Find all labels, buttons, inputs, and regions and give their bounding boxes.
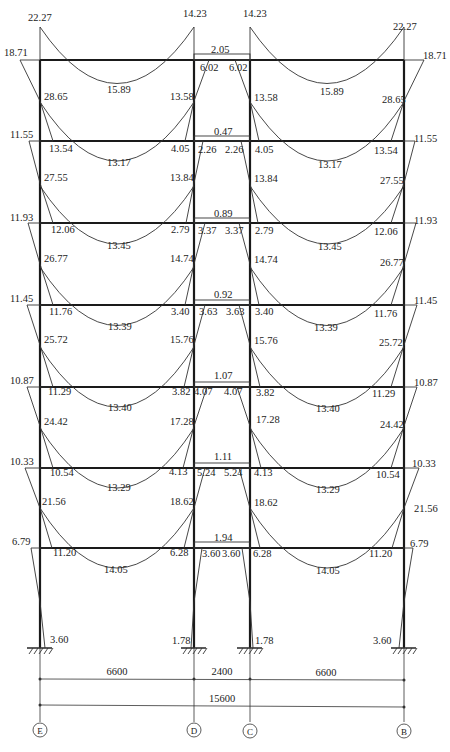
roof-right-curve [250,27,404,84]
value-label: 26.77 [380,257,404,268]
value-label: 25.72 [44,334,68,345]
value-label: 11.29 [48,386,71,397]
value-label: 14.74 [170,253,194,264]
value-label: 28.65 [44,91,68,102]
value-label: 22.27 [393,21,417,32]
value-label: 0.89 [214,208,232,219]
value-label: 6.02 [200,62,218,73]
value-label: 13.39 [314,322,338,333]
value-label: 21.56 [42,496,66,507]
value-label: 13.17 [318,159,342,170]
value-label: 10.54 [376,469,400,480]
value-label: 6.79 [410,538,428,549]
moment-values: 22.27 14.23 14.23 22.27 18.71 18.71 2.05… [4,8,447,646]
value-label: 13.84 [254,173,278,184]
axis-label-C: C [247,727,253,737]
value-label: 27.55 [44,172,68,183]
axis-label-E: E [37,726,43,736]
value-label: 13.58 [170,91,194,102]
value-label: 13.17 [107,157,131,168]
value-label: 12.06 [374,226,398,237]
value-label: 13.40 [316,403,340,414]
value-label: 12.06 [51,224,75,235]
value-label: 25.72 [379,337,403,348]
value-label: 3.60 [373,635,391,646]
dimension-lines [39,648,406,722]
value-label: 11.76 [49,306,72,317]
value-label: 15.76 [254,335,278,346]
value-label: 11.20 [369,548,392,559]
axis-label-D: D [191,726,198,736]
value-label: 1.07 [214,370,232,381]
value-label: 4.07 [224,386,242,397]
value-label: 13.40 [108,402,132,413]
value-label: 4.07 [194,386,212,397]
value-label: 6.28 [253,548,271,559]
value-label: 11.93 [414,215,437,226]
value-label: 4.13 [254,467,272,478]
value-label: 5.24 [224,467,243,478]
axis-markers: E D C B [33,723,411,738]
value-label: 24.42 [44,416,68,427]
frame-structure [40,60,404,648]
value-label: 11.93 [10,212,33,223]
value-label: 18.71 [423,50,447,61]
value-label: 3.63 [199,306,217,317]
value-label: 2.79 [255,225,273,236]
value-label: 4.05 [255,144,273,155]
value-label: 3.82 [172,386,190,397]
value-label: 6.02 [229,62,247,73]
value-label: 15.76 [170,334,194,345]
value-label: 15.89 [320,86,344,97]
value-label: 13.54 [49,143,73,154]
value-label: 14.05 [104,564,128,575]
value-label: 1.11 [214,451,232,462]
value-label: 13.58 [254,92,278,103]
value-label: 15.89 [107,84,131,95]
value-label: 13.54 [374,145,398,156]
value-label: 2.26 [225,144,243,155]
value-label: 10.33 [412,458,436,469]
value-label: 6.28 [170,547,188,558]
dim-span-3: 6600 [316,667,337,678]
value-label: 10.87 [414,377,438,388]
value-label: 17.28 [256,414,280,425]
value-label: 14.23 [183,8,207,19]
value-label: 3.37 [225,225,243,236]
value-label: 18.62 [170,496,194,507]
value-label: 3.82 [256,387,274,398]
value-label: 4.13 [169,466,187,477]
value-label: 22.27 [28,12,52,23]
roof-left-curve [40,27,194,84]
value-label: 14.23 [243,8,267,19]
value-label: 18.71 [4,47,28,58]
value-label: 11.55 [10,129,33,140]
value-label: 14.74 [254,254,278,265]
value-label: 11.76 [374,308,397,319]
value-label: 17.28 [170,416,194,427]
value-label: 13.45 [318,241,342,252]
value-label: 4.05 [171,143,189,154]
value-label: 13.84 [170,172,194,183]
value-label: 3.40 [171,306,189,317]
value-label: 11.45 [414,295,437,306]
value-label: 11.45 [10,293,33,304]
value-label: 10.87 [10,375,34,386]
value-label: 27.55 [380,175,404,186]
value-label: 3.37 [198,225,216,236]
dim-span-1: 6600 [107,666,128,677]
value-label: 14.05 [316,565,340,576]
value-label: 24.42 [380,419,404,430]
value-label: 3.40 [255,306,273,317]
f1-left-curve [40,508,194,568]
value-label: 1.78 [172,635,190,646]
value-label: 3.63 [226,306,244,317]
value-label: 0.92 [214,289,232,300]
value-label: 13.39 [108,321,132,332]
value-label: 21.56 [414,503,438,514]
value-label: 13.45 [107,240,131,251]
fixed-supports [27,648,417,654]
dim-span-2: 2400 [212,666,233,677]
value-label: 18.62 [254,497,278,508]
value-label: 6.79 [12,536,30,547]
